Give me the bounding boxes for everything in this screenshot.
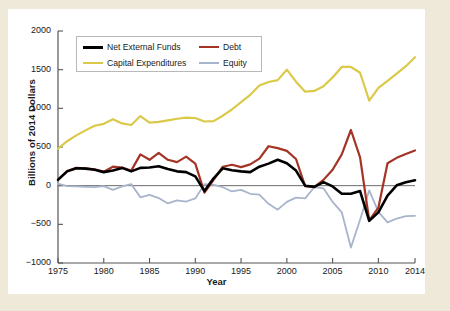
y-tick-label: 2000 — [8, 25, 51, 35]
legend-entry-equity: Equity — [199, 56, 247, 70]
chart-card: Billions of 2014 Dollars Year Net Extern… — [8, 9, 425, 294]
legend-label-net-external-funds: Net External Funds — [107, 42, 181, 52]
legend-swatch-net-external-funds — [83, 46, 103, 49]
legend: Net External Funds Debt Capital Expendit… — [76, 36, 262, 72]
legend-swatch-equity — [199, 62, 219, 64]
x-tick-label: 2014 — [395, 266, 435, 276]
y-tick-label: 1500 — [8, 64, 51, 74]
legend-entry-debt: Debt — [199, 40, 241, 54]
legend-entry-capital-expenditures: Capital Expenditures — [83, 56, 186, 70]
x-tick-label: 1990 — [175, 266, 215, 276]
x-tick-label: 1985 — [130, 266, 170, 276]
y-tick-label: 1000 — [8, 102, 51, 112]
x-tick-label: 1980 — [84, 266, 124, 276]
y-tick-label: 0 — [8, 180, 51, 190]
x-axis-label: Year — [8, 276, 425, 287]
x-tick-label: 1975 — [38, 266, 78, 276]
y-tick-label: −500 — [8, 218, 51, 228]
y-tick-label: 500 — [8, 141, 51, 151]
legend-label-equity: Equity — [223, 58, 247, 68]
legend-entry-net-external-funds: Net External Funds — [83, 40, 181, 54]
x-tick-label: 1995 — [221, 266, 261, 276]
x-tick-label: 2010 — [358, 266, 398, 276]
figure: Billions of 2014 Dollars Year Net Extern… — [8, 9, 425, 294]
legend-swatch-capital-expenditures — [83, 62, 103, 64]
x-tick-label: 2005 — [313, 266, 353, 276]
legend-label-capital-expenditures: Capital Expenditures — [107, 58, 186, 68]
legend-swatch-debt — [199, 46, 219, 48]
legend-label-debt: Debt — [223, 42, 241, 52]
x-tick-label: 2000 — [267, 266, 307, 276]
chart-page: Billions of 2014 Dollars Year Net Extern… — [0, 0, 450, 311]
